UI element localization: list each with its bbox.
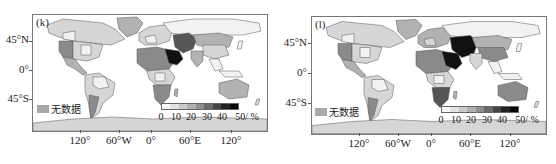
lat-label-45n: 45°N xyxy=(277,36,307,48)
lat-label-45s: 45°S xyxy=(277,96,307,108)
lon-tick xyxy=(510,133,511,136)
lat-label-45n: 45°N xyxy=(0,33,29,45)
map-panel-k: 45°N 0° 45°S (k) xyxy=(0,0,278,164)
lon-tick xyxy=(80,130,81,133)
nodata-swatch xyxy=(315,108,327,116)
colorbar-ticks: 0 10 20 30 40 50/ % xyxy=(441,113,541,125)
cbar-tick: 40 xyxy=(497,114,507,125)
cbar-tick: 20 xyxy=(466,114,476,125)
nodata-label: 无数据 xyxy=(329,104,359,119)
cbar-tick: 0 xyxy=(159,111,164,122)
lat-label-0: 0° xyxy=(277,66,307,78)
map-panel-l: 45°N 0° 45°S (l) xyxy=(278,0,556,164)
cbar-tick: 0 xyxy=(439,114,444,125)
cbar-tick: 30 xyxy=(202,111,212,122)
lat-label-0: 0° xyxy=(0,63,29,75)
lon-tick xyxy=(151,130,152,133)
lon-label-120e: 120° xyxy=(490,137,530,149)
cbar-tick: 50/ % xyxy=(235,111,259,122)
nodata-legend: 无数据 xyxy=(37,101,81,116)
colorbar-ticks: 0 10 20 30 40 50/ % xyxy=(161,110,261,122)
colorbar-gradient xyxy=(441,106,519,113)
lon-tick xyxy=(119,130,120,133)
lon-label-0: 0° xyxy=(131,134,171,146)
lon-label-120w: 120° xyxy=(339,137,379,149)
colorbar: 0 10 20 30 40 50/ % xyxy=(441,106,541,125)
lon-tick xyxy=(231,130,232,133)
panel-label: (k) xyxy=(36,16,49,28)
lon-tick xyxy=(359,133,360,136)
lon-tick xyxy=(470,133,471,136)
cbar-tick: 20 xyxy=(186,111,196,122)
nodata-swatch xyxy=(37,105,49,113)
lon-tick xyxy=(398,133,399,136)
nodata-legend: 无数据 xyxy=(315,104,359,119)
lat-label-45s: 45°S xyxy=(0,92,29,104)
lon-label-60e: 60°E xyxy=(170,134,210,146)
colorbar-gradient xyxy=(161,103,239,110)
lon-label-0: 0° xyxy=(411,137,451,149)
cbar-tick: 10 xyxy=(171,111,181,122)
lon-tick xyxy=(431,133,432,136)
map-frame: (l) xyxy=(311,16,547,135)
lon-label-60e: 60°E xyxy=(450,137,490,149)
lon-label-120w: 120° xyxy=(60,134,100,146)
colorbar: 0 10 20 30 40 50/ % xyxy=(161,103,261,122)
cbar-tick: 10 xyxy=(451,114,461,125)
panel-label: (l) xyxy=(315,18,325,30)
lon-tick xyxy=(190,130,191,133)
cbar-tick: 40 xyxy=(217,111,227,122)
cbar-tick: 30 xyxy=(482,114,492,125)
cbar-tick: 50/ % xyxy=(515,114,539,125)
lon-label-120e: 120° xyxy=(211,134,251,146)
map-frame: (k) xyxy=(32,14,268,132)
nodata-label: 无数据 xyxy=(51,101,81,116)
